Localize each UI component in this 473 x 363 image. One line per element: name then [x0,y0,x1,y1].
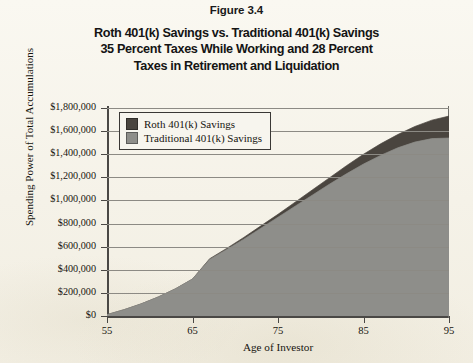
y-axis-tick-label: $1,800,000 [50,101,96,112]
gridline [107,247,449,248]
y-axis-tick-label: $200,000 [58,286,96,297]
x-axis-tick [278,317,279,323]
figure-label: Figure 3.4 [0,4,473,16]
chart-legend: Roth 401(k) Savings Traditional 401(k) S… [119,112,271,150]
y-axis-tick-label: $600,000 [58,240,96,251]
legend-swatch-traditional [126,132,138,144]
y-axis-tick-label: $800,000 [58,217,96,228]
chart-title-line-2: 35 Percent Taxes While Working and 28 Pe… [9,41,463,57]
x-axis-tick-label: 75 [258,325,298,336]
y-axis-tick-label: $1,000,000 [50,193,96,204]
gridline [107,224,449,225]
x-axis-title: Age of Investor [107,341,449,353]
gridline [107,154,449,155]
y-axis-tick-label: $1,600,000 [50,124,96,135]
x-axis-tick-label: 55 [87,325,127,336]
legend-label-roth: Roth 401(k) Savings [144,118,235,130]
x-axis-tick [193,317,194,323]
chart-title-line-1: Roth 401(k) Savings vs. Traditional 401(… [9,25,463,41]
y-axis-tick-label: $1,200,000 [50,170,96,181]
y-axis-tick-label: $0 [86,309,96,320]
legend-label-traditional: Traditional 401(k) Savings [144,132,262,144]
y-axis-tick-label: $400,000 [58,263,96,274]
gridline [107,108,449,109]
gridline [107,177,449,178]
gridline [107,200,449,201]
gridline [107,270,449,271]
legend-item-traditional: Traditional 401(k) Savings [126,131,262,145]
x-axis-tick [364,317,365,323]
y-axis-tick-label: $1,400,000 [50,147,96,158]
chart-title: Roth 401(k) Savings vs. Traditional 401(… [9,25,463,74]
area-series-traditional [107,138,449,316]
x-axis-tick-label: 95 [429,325,469,336]
legend-item-roth: Roth 401(k) Savings [126,117,262,131]
x-axis-tick-label: 65 [173,325,213,336]
gridline [107,293,449,294]
legend-swatch-roth [126,118,138,130]
x-axis-line [107,316,450,318]
y-axis-title: Spending Power of Total Accumulations [23,37,35,237]
x-axis-tick-label: 85 [344,325,384,336]
chart-title-line-3: Taxes in Retirement and Liquidation [9,58,463,74]
